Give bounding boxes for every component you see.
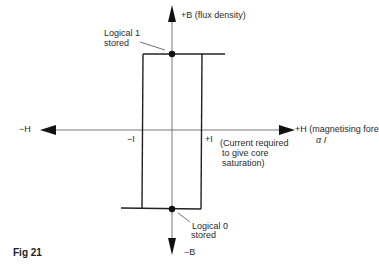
current-note-2: to give core [222, 149, 269, 158]
tick-pos-label: +I [205, 135, 213, 144]
h-axis-right-arrow-icon [279, 125, 295, 135]
logical-1-leader [140, 42, 165, 50]
logical-1-point [169, 51, 175, 57]
logical-0-label-2: stored [191, 231, 216, 240]
b-positive-label: +B (flux density) [181, 11, 246, 20]
logical-0-leader [178, 213, 190, 222]
tick-neg-label: −I [127, 135, 135, 144]
current-note-1: (Current required [220, 139, 289, 148]
figure-caption: Fig 21 [13, 247, 42, 258]
current-note-3: saturation) [222, 159, 265, 168]
h-negative-label: −H [19, 125, 31, 134]
b-negative-label: −B [184, 248, 195, 257]
logical-1-label-1: Logical 1 [104, 29, 140, 38]
h-axis-left-arrow-icon [40, 125, 56, 135]
h-positive-label-2: α I [316, 136, 326, 145]
logical-1-label-2: stored [104, 39, 129, 48]
b-axis-up-arrow-icon [168, 5, 176, 22]
h-positive-label: +H (magnetising fore [295, 125, 379, 134]
b-axis-down-arrow-icon [168, 238, 176, 255]
logical-0-point [169, 206, 175, 212]
hysteresis-loop [121, 54, 225, 209]
